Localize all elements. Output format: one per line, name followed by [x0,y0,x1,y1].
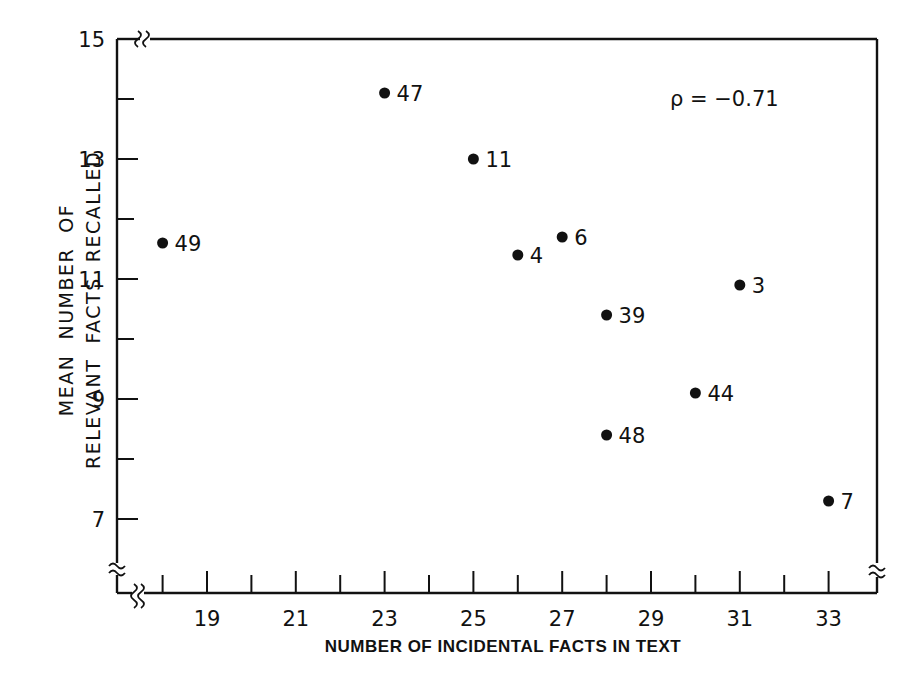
x-tick-label: 31 [726,607,753,631]
axis-break-icon [109,564,125,576]
data-point: 4 [512,244,543,268]
point-marker [690,388,701,399]
x-axis-label: NUMBER OF INCIDENTAL FACTS IN TEXT [325,637,681,656]
axis-break-icon [131,584,144,608]
point-marker [601,310,612,321]
plot-frame [109,31,885,608]
point-label: 7 [841,490,854,514]
data-point: 3 [734,274,765,298]
correlation-annotation: ρ = −0.71 [670,87,779,111]
scatter-chart: 79111315 1921232527293133 49471146339444… [0,0,907,680]
data-points: 4947114633944487 [157,82,854,514]
y-axis-label-line1: MEAN NUMBER OF [55,204,77,416]
y-tick-label: 15 [78,28,105,52]
point-marker [157,238,168,249]
point-label: 6 [574,226,587,250]
x-tick-label: 33 [815,607,842,631]
x-tick-label: 27 [549,607,576,631]
data-point: 48 [601,424,645,448]
axis-break-icon [135,31,149,47]
x-tick-label: 29 [638,607,665,631]
data-point: 44 [690,382,734,406]
data-point: 47 [379,82,423,106]
point-label: 3 [752,274,765,298]
point-label: 48 [619,424,646,448]
point-label: 4 [530,244,543,268]
y-tick-label: 7 [92,508,105,532]
point-marker [512,250,523,261]
point-label: 49 [175,232,202,256]
point-label: 47 [397,82,424,106]
x-tick-label: 21 [282,607,309,631]
point-label: 44 [707,382,734,406]
data-point: 49 [157,232,201,256]
point-marker [557,232,568,243]
point-label: 39 [619,304,646,328]
point-marker [468,154,479,165]
x-tick-label: 23 [371,607,398,631]
x-tick-label: 19 [194,607,221,631]
x-tick-label: 25 [460,607,487,631]
point-marker [734,280,745,291]
point-marker [601,430,612,441]
axis-break-icon [869,566,885,578]
point-marker [823,496,834,507]
data-point: 7 [823,490,854,514]
data-point: 11 [468,148,512,172]
point-marker [379,88,390,99]
point-label: 11 [485,148,512,172]
data-point: 6 [557,226,588,250]
data-point: 39 [601,304,645,328]
x-axis-ticks: 1921232527293133 [163,571,842,631]
y-axis-label-line2: RELEVANT FACTS RECALLED [82,151,104,469]
